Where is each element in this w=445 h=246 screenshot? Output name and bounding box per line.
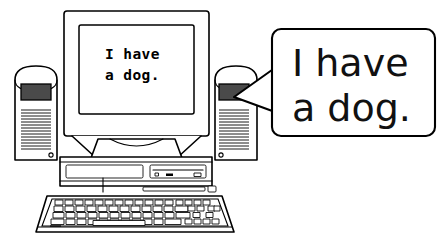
- computer-speech-illustration: I have a dog.: [0, 0, 445, 246]
- monitor-screen-line-2: a dog.: [105, 67, 160, 83]
- speech-bubble-line-2: a dog.: [292, 86, 411, 130]
- right-speaker: [215, 66, 257, 160]
- left-speaker: [15, 66, 57, 160]
- case-front-slot-icon: [143, 187, 205, 191]
- illustration-canvas: I have a dog.: [0, 0, 445, 246]
- speech-bubble: I have a dog.: [234, 29, 435, 136]
- left-speaker-panel: [21, 84, 51, 100]
- optical-drive-slot-icon: [166, 174, 173, 177]
- case-power-button[interactable]: [208, 186, 216, 192]
- desktop-case: [60, 157, 216, 192]
- monitor-stand: [91, 139, 182, 158]
- speech-bubble-line-1: I have: [292, 41, 409, 85]
- keyboard-spacebar[interactable]: [93, 221, 145, 226]
- crt-monitor: I have a dog.: [64, 11, 209, 158]
- optical-drive-led-icon: [155, 173, 159, 176]
- monitor-screen-line-1: I have: [105, 46, 160, 62]
- floppy-drive-bay: [66, 165, 143, 178]
- optical-drive-eject-button[interactable]: [194, 173, 201, 177]
